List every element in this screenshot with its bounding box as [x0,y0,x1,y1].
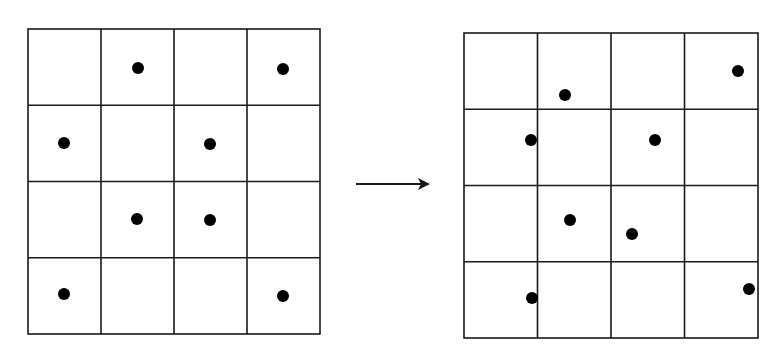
point-dot [58,288,70,300]
point-dot [132,62,144,74]
point-dot [131,213,143,225]
point-dot [649,134,661,146]
point-dot [526,292,538,304]
point-dot [732,65,744,77]
point-dot [277,290,289,302]
point-dot [564,214,576,226]
left-grid [28,29,320,334]
point-dot [204,138,216,150]
point-dot [559,89,571,101]
right-grid [464,33,758,338]
point-dot [277,63,289,75]
point-dot [743,283,755,295]
transform-arrow [356,178,430,190]
diagram-canvas [0,0,778,357]
point-dot [626,228,638,240]
point-dot [525,134,537,146]
point-dot [204,214,216,226]
point-dot [58,137,70,149]
